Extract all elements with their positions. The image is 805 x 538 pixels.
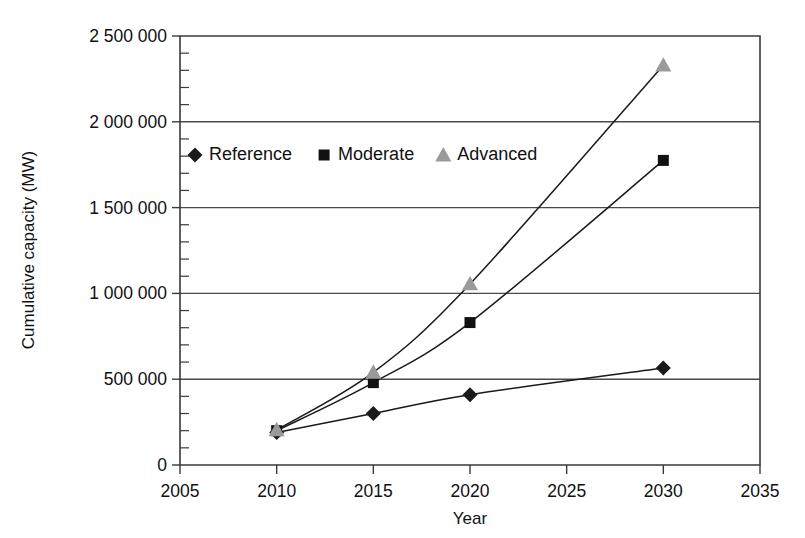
chart-legend: ReferenceModerateAdvanced: [188, 144, 538, 164]
legend-label-reference: Reference: [209, 144, 292, 164]
data-point-moderate: [658, 155, 669, 166]
y-axis-title: Cumulative capacity (MW): [19, 151, 38, 349]
y-tick-label: 2 000 000: [89, 112, 167, 132]
x-tick-label: 2035: [741, 481, 780, 501]
data-point-moderate: [368, 377, 379, 388]
legend-label-moderate: Moderate: [338, 144, 414, 164]
x-tick-label: 2020: [451, 481, 490, 501]
y-tick-label: 500 000: [104, 369, 168, 389]
legend-label-advanced: Advanced: [457, 144, 537, 164]
legend-square-icon: [319, 150, 330, 161]
x-tick-group: [180, 465, 760, 474]
x-axis-title: Year: [453, 509, 488, 528]
y-tick-label: 1 500 000: [89, 198, 167, 218]
x-tick-label-group: 2005201020152020202520302035: [161, 481, 780, 501]
line-chart-canvas: 0500 0001 000 0001 500 0002 000 0002 500…: [0, 0, 805, 538]
x-tick-label: 2030: [644, 481, 683, 501]
x-tick-label: 2005: [161, 481, 200, 501]
x-tick-label: 2015: [354, 481, 393, 501]
y-tick-label-group: 0500 0001 000 0001 500 0002 000 0002 500…: [89, 26, 167, 475]
y-tick-label: 1 000 000: [89, 283, 167, 303]
data-point-moderate: [465, 317, 476, 328]
x-tick-label: 2025: [547, 481, 586, 501]
x-tick-label: 2010: [257, 481, 296, 501]
y-tick-label: 0: [157, 455, 167, 475]
y-tick-label: 2 500 000: [89, 26, 167, 46]
chart-figure: 0500 0001 000 0001 500 0002 000 0002 500…: [0, 0, 805, 538]
